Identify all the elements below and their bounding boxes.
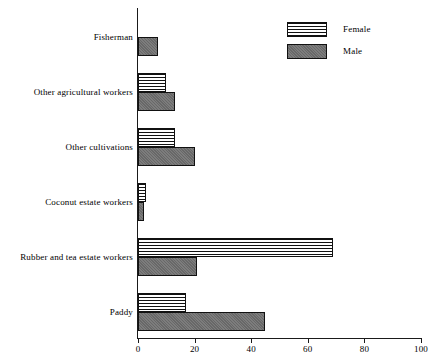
bar-female-5 <box>138 293 186 312</box>
bar-male-1 <box>138 92 175 111</box>
male-gray-swatch <box>287 44 327 59</box>
bar-female-4 <box>138 238 333 257</box>
category-label-0: Fisherman <box>0 32 133 43</box>
x-tick-label-80: 80 <box>349 344 379 355</box>
bar-male-3 <box>138 202 144 221</box>
bar-male-0 <box>138 37 158 56</box>
chart-legend: Female Male <box>287 18 371 62</box>
legend-label-female: Female <box>343 24 371 35</box>
x-tick-80 <box>364 338 365 343</box>
category-label-2: Other cultivations <box>0 142 133 153</box>
x-tick-40 <box>251 338 252 343</box>
bar-female-1 <box>138 73 166 92</box>
category-label-5: Paddy <box>0 307 133 318</box>
bar-chart: FishermanOther agricultural workersOther… <box>0 0 438 360</box>
x-tick-20 <box>195 338 196 343</box>
x-tick-0 <box>138 338 139 343</box>
y-axis-line <box>137 8 138 338</box>
legend-item-female: Female <box>287 18 371 40</box>
x-tick-label-100: 100 <box>406 344 436 355</box>
x-tick-label-0: 0 <box>123 344 153 355</box>
legend-item-male: Male <box>287 40 371 62</box>
bar-male-5 <box>138 312 265 331</box>
bar-male-2 <box>138 147 195 166</box>
x-tick-label-60: 60 <box>293 344 323 355</box>
x-tick-60 <box>308 338 309 343</box>
x-tick-label-20: 20 <box>180 344 210 355</box>
category-label-3: Coconut estate workers <box>0 197 133 208</box>
bar-male-4 <box>138 257 197 276</box>
legend-label-male: Male <box>343 46 362 57</box>
female-striped-swatch <box>287 22 327 37</box>
category-label-1: Other agricultural workers <box>0 87 133 98</box>
bar-female-3 <box>138 183 146 202</box>
x-tick-100 <box>421 338 422 343</box>
category-label-4: Rubber and tea estate workers <box>0 252 133 263</box>
category-axis-labels: FishermanOther agricultural workersOther… <box>0 0 133 360</box>
x-axis-line <box>137 338 421 339</box>
bar-female-2 <box>138 128 175 147</box>
x-tick-label-40: 40 <box>236 344 266 355</box>
